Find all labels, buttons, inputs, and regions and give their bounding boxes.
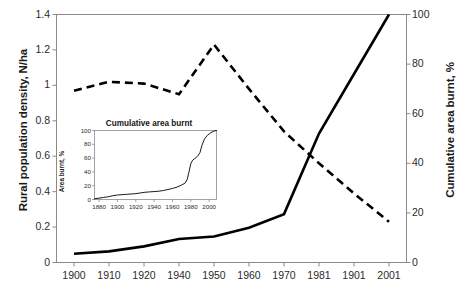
figure-root: Rural population density, N/ha Cumulativ… [0, 0, 460, 299]
plot-canvas [0, 0, 460, 299]
inset-plot [92, 131, 217, 203]
